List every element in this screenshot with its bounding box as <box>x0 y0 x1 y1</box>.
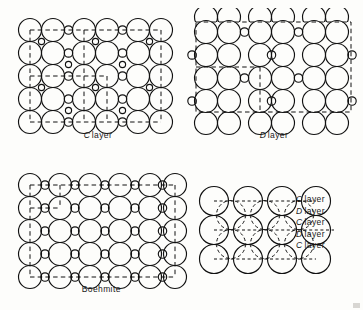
caption-boehmite: Boehmite <box>8 284 193 294</box>
stack-label-row: Clayer <box>296 194 325 206</box>
panel-c-layer <box>8 8 188 148</box>
figure-root: Clayer <box>0 0 363 310</box>
d-layer-drawing <box>188 8 360 148</box>
stack-label-row: Clayer <box>296 240 325 252</box>
d-layer-top-arcs <box>195 6 349 29</box>
stack-label-text: layer <box>305 240 325 250</box>
c-layer-large-circles <box>19 19 173 134</box>
stack-label-letter: C <box>296 240 305 250</box>
caption-boehmite-text: Boehmite <box>82 284 121 294</box>
panel-d-layer <box>188 8 360 148</box>
caption-c-layer-letter: C <box>84 130 92 140</box>
stack-label-text: layer <box>305 206 325 216</box>
stack-label-letter: D <box>296 229 305 239</box>
stack-label-text: layer <box>305 217 325 227</box>
d-layer-unit-cell <box>196 22 351 112</box>
caption-c-layer: Clayer <box>8 130 188 140</box>
stacking-layer-labels: Clayer Dlayer Clayer Dlayer Clayer <box>296 194 325 252</box>
panel-boehmite <box>8 163 193 303</box>
stack-label-row: Dlayer <box>296 229 325 241</box>
caption-d-layer: Dlayer <box>188 130 360 140</box>
d-layer-large-circles <box>195 21 349 113</box>
scan-corner-artifact <box>353 303 360 308</box>
stack-label-letter: C <box>296 194 305 204</box>
boehmite-large-circles <box>19 174 187 289</box>
c-layer-drawing <box>8 8 188 148</box>
boehmite-drawing <box>8 163 193 303</box>
caption-c-layer-text: layer <box>92 130 112 140</box>
stack-label-letter: D <box>296 206 305 216</box>
boehmite-unit-cell <box>30 185 175 277</box>
caption-d-layer-text: layer <box>268 130 288 140</box>
stack-label-row: Dlayer <box>296 206 325 218</box>
stack-label-text: layer <box>305 194 325 204</box>
stack-label-row: Clayer <box>296 217 325 229</box>
stack-label-letter: C <box>296 217 305 227</box>
caption-d-layer-letter: D <box>260 130 268 140</box>
stack-label-text: layer <box>305 229 325 239</box>
